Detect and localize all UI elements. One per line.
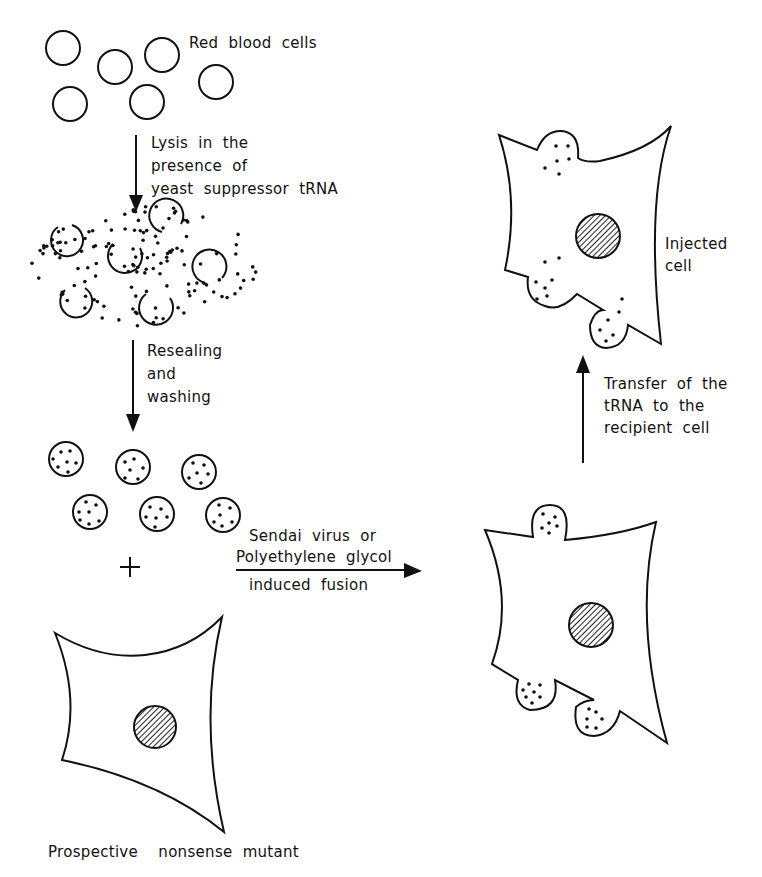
lysed-cells xyxy=(30,199,257,328)
label-lysis-line-3: yeast suppressor tRNA xyxy=(151,179,338,200)
lysis-arrow xyxy=(129,135,143,212)
fused-cell xyxy=(485,505,667,743)
label-resealing-line-2: and xyxy=(147,364,176,385)
resealing-arrow xyxy=(126,340,140,432)
transfer-arrow xyxy=(576,355,590,463)
label-prospective-nonsense-mutant: Prospective nonsense mutant xyxy=(48,842,299,863)
label-resealing-line-1: Resealing xyxy=(147,341,222,362)
label-lysis-line-1: Lysis in the xyxy=(151,133,248,154)
injected-cell xyxy=(499,126,671,348)
plus-sign xyxy=(120,557,140,577)
label-fusion-line-2: Polyethylene glycol xyxy=(236,547,392,568)
resealed-ghosts xyxy=(49,442,240,532)
label-resealing-line-3: washing xyxy=(147,387,211,408)
label-red-blood-cells: Red blood cells xyxy=(189,33,317,54)
label-transfer-line-1: Transfer of the xyxy=(604,374,728,395)
label-lysis-line-2: presence of xyxy=(151,156,247,177)
label-injected-line-2: cell xyxy=(665,256,692,277)
label-transfer-line-3: recipient cell xyxy=(604,418,710,439)
recipient-cell xyxy=(55,617,224,832)
label-injected-line-1: Injected xyxy=(665,234,728,255)
label-transfer-line-2: tRNA to the xyxy=(604,396,704,417)
label-fusion-line-3: induced fusion xyxy=(249,575,368,596)
label-fusion-line-1: Sendai virus or xyxy=(249,526,376,547)
